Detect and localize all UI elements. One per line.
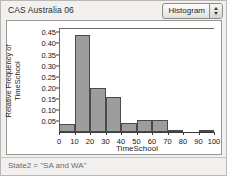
histogram-bars [59,28,214,132]
y-tick-label: 0.25 [41,72,56,81]
histogram-bar[interactable] [121,123,137,133]
x-tick-mark [214,132,215,135]
chevron-up-icon [214,7,218,10]
plot-type-dropdown-label: Histogram [163,4,209,18]
plot-type-dropdown[interactable]: Histogram [162,3,223,19]
y-tick-label: 0.30 [41,61,56,70]
y-tick-label: 0.20 [41,83,56,92]
histogram-window: CAS Australia 06 Histogram Relative Freq… [0,0,227,176]
y-axis-ticks: 0.050.100.150.200.250.300.350.400.45 [29,21,59,156]
y-tick-label: 0.35 [41,50,56,59]
status-bar: State2 = "SA and WA" [1,158,227,175]
x-axis-title: TimeSchool [59,144,215,153]
x-tick-mark [152,132,153,135]
y-tick-label: 0.40 [41,39,56,48]
x-tick-mark [106,132,107,135]
chevron-down-icon [214,12,218,15]
page-title: CAS Australia 06 [8,5,74,15]
plot-card[interactable]: Relative Frequency of TimeSchool 0.050.1… [6,20,222,155]
x-tick-mark [75,132,76,135]
stepper-up-down-icon[interactable] [209,4,222,18]
histogram-bar[interactable] [106,97,122,132]
y-axis-title: Relative Frequency of TimeSchool [5,27,23,135]
x-tick-mark [183,132,184,135]
histogram-bar[interactable] [59,124,75,132]
status-filter-text: State2 = "SA and WA" [8,161,87,170]
y-tick-label: 0.45 [41,28,56,37]
y-tick-label: 0.15 [41,94,56,103]
y-axis-title-line-2: TimeSchool [14,27,23,135]
x-tick-mark [59,132,60,135]
x-tick-mark [168,132,169,135]
histogram-bar[interactable] [90,88,106,132]
y-tick-label: 0.10 [41,105,56,114]
y-tick-label: 0.05 [41,116,56,125]
x-tick-mark [90,132,91,135]
x-tick-mark [121,132,122,135]
histogram-bar[interactable] [152,120,168,132]
histogram-bar[interactable] [137,120,153,132]
histogram-bar[interactable] [75,35,91,132]
window-header: CAS Australia 06 Histogram [1,1,227,21]
x-tick-mark [137,132,138,135]
x-tick-mark [199,132,200,135]
